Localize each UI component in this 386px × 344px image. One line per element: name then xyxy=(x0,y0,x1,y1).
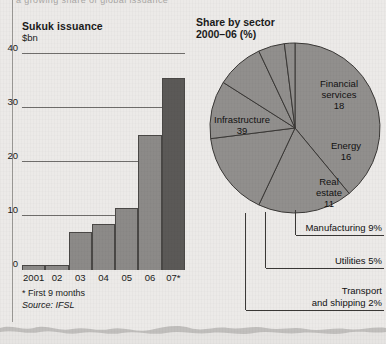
bar-chart-footnote: * First 9 months xyxy=(22,288,85,298)
y-tick-label-40: 40 xyxy=(7,42,18,53)
callout-leader-horizontal-transport xyxy=(246,310,384,311)
pie-callout-manufacturing: Manufacturing 9% xyxy=(305,222,382,234)
callout-label2-transport: and shipping 2% xyxy=(312,297,382,309)
callout-label-manufacturing: Manufacturing 9% xyxy=(305,222,382,234)
callout-leader-horizontal-manufacturing xyxy=(296,235,384,236)
bar-chart-bars xyxy=(22,54,185,270)
pie-label-name-real-estate: Real xyxy=(306,176,352,187)
pie-label-name-infrastructure: Infrastructure xyxy=(194,114,290,125)
pie-inner-label-financial-services: Financialservices18 xyxy=(306,78,372,111)
pie-label-value-energy: 16 xyxy=(318,151,374,162)
pie-chart-title: Share by sector xyxy=(196,16,275,28)
bar-02 xyxy=(45,265,68,270)
torn-paper-edge xyxy=(0,314,386,344)
callout-leader-vertical-manufacturing xyxy=(295,210,296,235)
bar-07 xyxy=(162,78,185,270)
bar-03 xyxy=(69,232,92,270)
callout-label-utilities: Utilities 5% xyxy=(335,255,382,267)
y-tick-label-10: 10 xyxy=(7,204,18,215)
y-tick-label-20: 20 xyxy=(7,150,18,161)
bar-chart-subtitle: $bn xyxy=(22,32,38,43)
pie-callout-utilities: Utilities 5% xyxy=(335,255,382,267)
x-label-07: 07* xyxy=(162,272,185,283)
pie-inner-label-energy: Energy16 xyxy=(318,140,374,162)
bar-2001 xyxy=(22,265,45,270)
pie-callout-transport: Transportand shipping 2% xyxy=(312,285,382,308)
y-tick-label-30: 30 xyxy=(7,96,18,107)
callout-leader-vertical-utilities xyxy=(265,212,266,268)
bar-chart-x-axis-labels: 2001020304050607* xyxy=(22,272,185,283)
bar-chart-plot: 010203040 xyxy=(22,52,185,270)
pie-label-name-real-estate: estate xyxy=(306,187,352,198)
pie-inner-label-real-estate: Realestate11 xyxy=(306,176,352,209)
clipped-headline-text: a growing share of global issuance xyxy=(16,0,168,5)
bar-04 xyxy=(92,224,115,270)
pie-label-name-financial-services: Financial xyxy=(306,78,372,89)
clipped-headline-strip: a growing share of global issuance xyxy=(14,0,374,11)
callout-label-transport: Transport xyxy=(312,285,382,297)
bar-05 xyxy=(115,208,138,270)
y-tick-label-0: 0 xyxy=(13,258,18,269)
x-label-03: 03 xyxy=(69,272,92,283)
callout-leader-horizontal-utilities xyxy=(266,268,384,269)
x-label-04: 04 xyxy=(92,272,115,283)
pie-inner-label-infrastructure: Infrastructure39 xyxy=(194,114,290,136)
figure-page: a growing share of global issuance Sukuk… xyxy=(0,0,386,344)
bar-06 xyxy=(138,135,161,270)
bar-chart-source: Source: IFSL xyxy=(22,300,75,310)
x-label-2001: 2001 xyxy=(22,272,45,283)
pie-label-name-financial-services: services xyxy=(306,89,372,100)
x-label-02: 02 xyxy=(45,272,68,283)
x-label-05: 05 xyxy=(115,272,138,283)
pie-label-value-infrastructure: 39 xyxy=(194,125,290,136)
pie-label-value-financial-services: 18 xyxy=(306,100,372,111)
pie-chart-wrap: Infrastructure39Financialservices18Energ… xyxy=(188,36,386,222)
x-label-06: 06 xyxy=(138,272,161,283)
callout-leader-vertical-transport xyxy=(245,213,246,310)
pie-label-name-energy: Energy xyxy=(318,140,374,151)
pie-label-value-real-estate: 11 xyxy=(306,198,352,209)
bar-chart-title: Sukuk issuance xyxy=(22,20,103,32)
